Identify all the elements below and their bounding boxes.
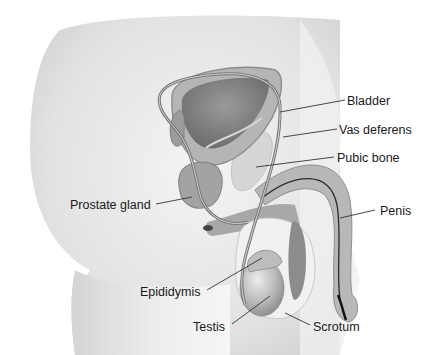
label-pubic-bone: Pubic bone bbox=[337, 151, 400, 165]
anatomy-diagram: Bladder Vas deferens Pubic bone Prostate… bbox=[0, 0, 439, 355]
label-testis: Testis bbox=[193, 320, 225, 334]
label-bladder: Bladder bbox=[347, 94, 390, 108]
label-prostate-gland: Prostate gland bbox=[70, 198, 151, 212]
label-vas-deferens: Vas deferens bbox=[339, 123, 412, 137]
label-penis: Penis bbox=[380, 204, 411, 218]
prostate-shape bbox=[179, 162, 222, 208]
label-epididymis: Epididymis bbox=[140, 285, 200, 299]
label-scrotum: Scrotum bbox=[313, 320, 360, 334]
